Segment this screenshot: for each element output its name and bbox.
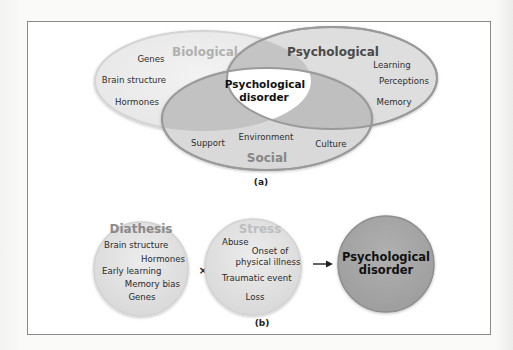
diathesis-item: Genes — [128, 292, 156, 302]
biopsychosocial-diagram: Biological Genes Brain structure Hormone… — [0, 0, 513, 350]
center-label-line2: disorder — [239, 91, 289, 103]
biological-title: Biological — [172, 45, 238, 59]
psychological-title: Psychological — [287, 45, 379, 59]
diathesis-item: Hormones — [141, 254, 185, 264]
outcome-label-line2: disorder — [359, 263, 414, 277]
biological-item: Hormones — [115, 97, 159, 107]
center-label-line1: Psychological — [225, 78, 305, 90]
psychological-item: Learning — [373, 60, 410, 70]
panel-a-label: (a) — [254, 177, 268, 187]
diathesis-title: Diathesis — [110, 222, 173, 236]
panel-b-label: (b) — [255, 318, 270, 328]
social-title: Social — [247, 151, 287, 165]
stress-item: Loss — [246, 292, 265, 302]
arrow-right-icon — [313, 261, 333, 268]
psychological-item: Memory — [377, 97, 412, 107]
venn-diagram: Biological Genes Brain structure Hormone… — [95, 27, 437, 187]
stress-item: Onset of — [252, 246, 289, 256]
stress-title: Stress — [239, 222, 282, 236]
stress-item: physical illness — [236, 257, 301, 267]
stress-item: Abuse — [222, 237, 249, 247]
outcome-label-line1: Psychological — [342, 250, 430, 264]
social-item: Environment — [239, 132, 295, 142]
page: Biological Genes Brain structure Hormone… — [0, 0, 513, 350]
biological-item: Brain structure — [102, 75, 166, 85]
stress-item: Traumatic event — [221, 273, 292, 283]
diathesis-item: Memory bias — [125, 279, 181, 289]
biological-item: Genes — [137, 54, 165, 64]
social-item: Culture — [315, 139, 346, 149]
psychological-item: Perceptions — [379, 76, 429, 86]
social-item: Support — [191, 138, 226, 148]
diathesis-item: Early learning — [102, 266, 162, 276]
diathesis-item: Brain structure — [104, 240, 168, 250]
diathesis-stress-model: Diathesis Brain structure Hormones Early… — [94, 216, 434, 328]
